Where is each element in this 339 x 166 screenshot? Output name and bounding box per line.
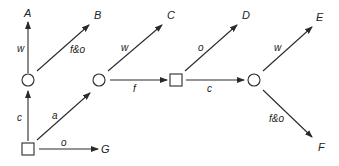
edge-label-n3-n4: c [207,83,212,94]
edge-label-n0-n1: c [17,112,22,123]
terminal-G: G [101,143,110,155]
edge-label-n0-n2: a [52,110,58,121]
terminal-A: A [23,7,31,19]
edge-n2-to-C [108,25,162,71]
edge-label-n1-B: f&o [70,44,85,55]
edge-label-n4-E: w [274,42,282,53]
edge-label-n1-A: w [17,43,25,54]
state-circle-2 [93,74,105,86]
edge-n0-to-n2 [37,93,90,140]
edge-label-n4-F: f&o [269,113,284,124]
state-circle-1 [22,74,34,86]
edge-label-n2-C: w [121,42,129,53]
terminal-C: C [167,9,175,21]
state-square-start [22,143,34,155]
edge-label-n2-n3: f [133,83,137,94]
terminal-F: F [318,141,326,153]
edge-n4-to-E [263,27,312,71]
state-diagram: A B C D E F G w f&o w f o c w f&o c a o [0,0,339,166]
terminal-B: B [94,9,101,21]
terminal-E: E [316,11,324,23]
edge-n3-to-D [185,25,237,71]
terminal-D: D [242,9,250,21]
state-square-3 [170,74,182,86]
edge-label-n0-G: o [61,137,67,148]
edge-label-n3-D: o [198,42,204,53]
state-circle-4 [248,74,260,86]
